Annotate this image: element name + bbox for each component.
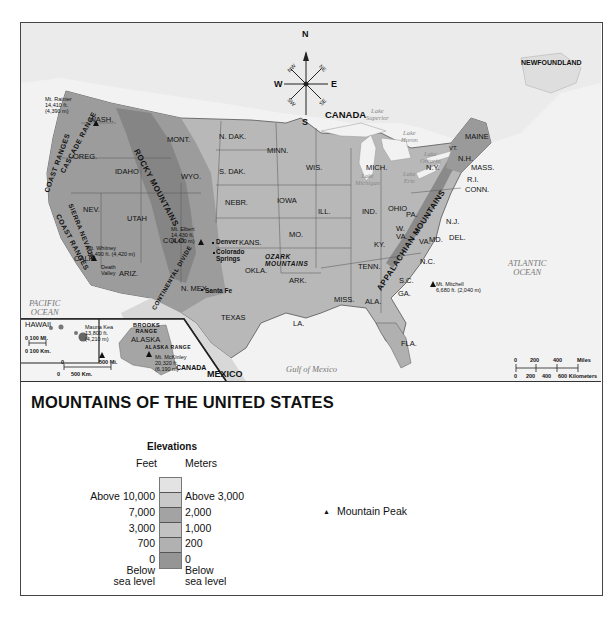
label-santa-fe: Santa Fe	[205, 288, 232, 295]
label-iowa: IOWA	[277, 197, 297, 205]
label-tenn: TENN.	[358, 263, 381, 271]
label-lake-superior: Lake Superior	[366, 108, 389, 122]
label-nev: NEV.	[83, 206, 100, 214]
alaska-scale-miles-500: 500 Mi.	[99, 359, 117, 365]
feet-label: 3,000	[129, 523, 155, 534]
label-alaska-range: ALASKA RANGE	[145, 345, 191, 350]
label-maine: MAINE	[465, 133, 489, 141]
meter-label: 2,000	[185, 507, 211, 518]
label-colorado-springs: Colorado Springs	[216, 249, 245, 263]
label-pacific-ocean: PACIFIC OCEAN	[29, 299, 60, 318]
scale-km-200: 200	[526, 373, 535, 379]
label-mt-whitney: Mt. Whitney 14,490 ft. (4,420 m)	[87, 245, 135, 257]
meter-label: sea level	[185, 576, 226, 587]
label-denver: Denver	[216, 239, 238, 246]
label-ariz: ARIZ.	[119, 270, 138, 278]
band-700-3000	[160, 523, 181, 538]
compass-w: W	[274, 80, 283, 89]
label-vt: VT.	[449, 145, 458, 151]
label-mich: MICH.	[366, 164, 387, 172]
mountain-peak-label: Mountain Peak	[337, 505, 407, 517]
label-utah: UTAH	[127, 215, 147, 223]
feet-label: Below	[126, 565, 155, 576]
label-pa: PA.	[406, 211, 418, 219]
map-title: MOUNTAINS OF THE UNITED STATES	[31, 393, 334, 412]
label-brooks-range: BROOKS RANGE	[133, 323, 160, 335]
label-idaho: IDAHO	[115, 168, 139, 176]
band-below-sea-level	[160, 553, 181, 568]
meter-label: 0	[185, 554, 191, 565]
alaska-scale-km-0: 0	[57, 371, 60, 377]
label-texas: TEXAS	[221, 314, 246, 322]
band-0-700	[160, 538, 181, 553]
compass-n: N	[302, 30, 309, 39]
label-ark: ARK.	[289, 277, 307, 285]
label-ohio: OHIO	[388, 205, 407, 213]
legend-meter-labels: Above 3,000 2,000 1,000 200 0 Below sea …	[185, 491, 305, 601]
label-mo: MO.	[289, 231, 303, 239]
scale-miles-unit: Miles	[577, 357, 591, 363]
scale-miles-0: 0	[514, 357, 517, 363]
scale-km-0: 0	[514, 373, 517, 379]
legend-mountain-peak: ▲Mountain Peak	[323, 505, 407, 517]
label-ill: ILL.	[318, 208, 331, 216]
label-mexico: MEXICO	[207, 370, 243, 379]
label-mont: MONT.	[167, 136, 190, 144]
meter-label: 1,000	[185, 523, 211, 534]
band-7000-10000	[160, 493, 181, 508]
label-lake-huron: Lake Huron	[401, 130, 418, 144]
label-ndak: N. DAK.	[219, 133, 246, 141]
label-alaska: ALASKA	[131, 336, 160, 344]
label-conn: CONN.	[465, 186, 489, 194]
feet-label: 700	[137, 538, 155, 549]
meter-label: 200	[185, 538, 203, 549]
alaska-scale-km-500: 500 Km.	[71, 371, 92, 377]
label-mt-rainier: Mt. Rainier 14,410 ft. (4,390 m)	[45, 96, 72, 114]
label-lake-michigan: Lake Michigan	[355, 173, 380, 187]
elevation-color-scale	[159, 477, 182, 569]
label-ky: KY.	[374, 241, 385, 249]
label-ind: IND.	[362, 208, 377, 216]
label-ozark-mountains: OZARK MOUNTAINS	[265, 253, 308, 267]
label-sdak: S. DAK.	[219, 168, 246, 176]
label-minn: MINN.	[267, 147, 288, 155]
meter-label: Below	[185, 565, 214, 576]
label-mass: MASS.	[471, 164, 494, 172]
label-mauna-kea: Mauna Kea 13,800 ft. (4,210 m)	[85, 324, 113, 342]
label-death-valley: Death Valley	[101, 264, 116, 276]
label-fla: FLA.	[401, 340, 417, 348]
label-nj: N.J.	[446, 218, 459, 226]
label-lake-erie: Lake Erie	[403, 171, 416, 185]
meter-label: Above 3,000	[185, 491, 244, 502]
legend-feet-header: Feet	[136, 457, 157, 469]
label-kans: KANS.	[239, 239, 262, 247]
map-area: N S E W NW NE SW SE CANADA NEWFOUNDLAND …	[21, 23, 601, 382]
feet-label: sea level	[114, 576, 155, 587]
legend-heading: Elevations	[147, 441, 197, 452]
label-okla: OKLA.	[245, 267, 267, 275]
label-mt-mitchell: Mt. Mitchell 6,680 ft. (2,040 m)	[436, 281, 481, 293]
scale-miles-400: 400	[553, 357, 562, 363]
band-3000-7000	[160, 508, 181, 523]
label-sc: S.C.	[399, 277, 414, 285]
map-figure: N S E W NW NE SW SE CANADA NEWFOUNDLAND …	[20, 22, 603, 596]
scale-miles-200: 200	[530, 357, 539, 363]
label-ny: N.Y.	[426, 164, 440, 172]
label-gulf-of-mexico: Gulf of Mexico	[286, 365, 337, 374]
label-mt-elbert: Mt. Elbert 14,430 ft. (4,400 m)	[171, 226, 195, 244]
scale-km-400: 400	[542, 373, 551, 379]
label-wis: WIS.	[306, 164, 322, 172]
feet-label: Above 10,000	[90, 491, 155, 502]
label-nebr: NEBR.	[225, 199, 248, 207]
band-above-10000	[160, 478, 181, 493]
compass-e: E	[331, 80, 337, 89]
hawaii-scale-miles: 0 100 MI.	[25, 335, 48, 341]
alaska-scale-miles-0: 0	[61, 359, 64, 365]
label-miss: MISS.	[334, 296, 354, 304]
mountain-peak-icon: ▲	[323, 508, 330, 515]
label-md: MD.	[429, 236, 443, 244]
hawaii-scale-km: 0 100 Km.	[25, 348, 51, 354]
legend-feet-labels: Above 10,000 7,000 3,000 700 0 Below sea…	[61, 491, 155, 601]
label-la: LA.	[293, 320, 304, 328]
label-newfoundland: NEWFOUNDLAND	[521, 59, 582, 66]
